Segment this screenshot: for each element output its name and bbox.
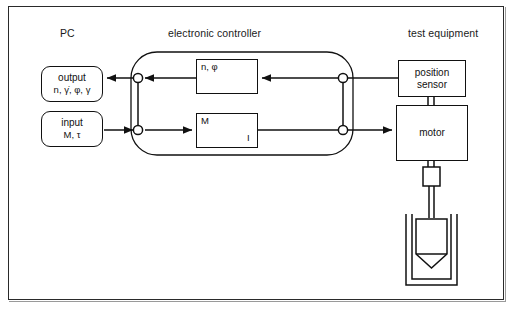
position-sensor-label: position sensor: [399, 67, 465, 91]
zone-label-test-equipment: test equipment: [408, 27, 478, 39]
block-output: output n, γ̇, φ, γ: [41, 66, 103, 102]
shaft-coupling: [423, 167, 440, 186]
output-block-variables: n, γ̇, φ, γ: [54, 84, 91, 96]
zone-label-electronic-controller: electronic controller: [168, 27, 261, 39]
block-motor: motor: [396, 105, 468, 161]
node-left-bot: [133, 125, 142, 134]
sensor-motor-shaft: [428, 97, 434, 105]
zone-label-pc: PC: [60, 27, 75, 39]
block-position-sensor: position sensor: [398, 60, 466, 97]
motor-shaft-upper: [428, 161, 434, 167]
motor-label: motor: [419, 127, 445, 139]
cup-inner: [412, 214, 451, 279]
input-block-title: input: [61, 117, 83, 130]
speed-angle-converter-label: n, φ: [201, 61, 218, 72]
drive-shaft: [429, 186, 434, 218]
node-right-bot: [338, 125, 347, 134]
node-left-top: [133, 73, 142, 82]
measuring-bob: [416, 219, 447, 268]
output-block-title: output: [58, 72, 86, 85]
node-right-top: [338, 73, 347, 82]
torque-current-converter-output-label: I: [247, 132, 250, 143]
figure-canvas: PC electronic controller test equipment …: [0, 0, 514, 310]
torque-current-converter-input-label: M: [201, 115, 209, 126]
input-block-variables: M, τ: [64, 129, 81, 141]
block-input: input M, τ: [41, 111, 103, 147]
cup-outer: [406, 214, 457, 285]
